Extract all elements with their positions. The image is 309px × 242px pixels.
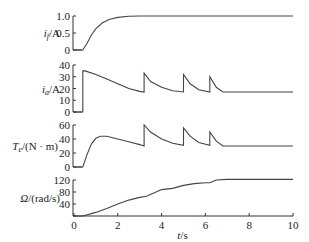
chart-figure: 00.51.0if/A010203040ia/A0204060Te/(N · m…: [0, 0, 309, 242]
y-tick-label: 20: [59, 147, 71, 159]
y-tick-label: 60: [59, 119, 71, 131]
x-tick-label: 6: [203, 219, 209, 231]
y-tick-label: 40: [59, 198, 71, 210]
y-axis-label: if/A: [44, 27, 60, 41]
panel-1: 00.51.0if/A: [44, 10, 293, 56]
y-tick-label: 80: [59, 186, 71, 198]
series-line: [74, 125, 293, 167]
y-axis-label: ia/A: [42, 83, 60, 97]
x-tick-label: 0: [71, 219, 77, 231]
x-tick-label: 2: [115, 219, 121, 231]
x-tick-label: 10: [288, 219, 300, 231]
y-tick-label: 0: [65, 44, 71, 56]
series-line: [74, 179, 293, 216]
y-tick-label: 10: [59, 94, 71, 106]
y-tick-label: 1.0: [56, 10, 70, 22]
y-tick-label: 0: [65, 161, 71, 173]
panel-2: 010203040ia/A: [42, 59, 293, 118]
y-tick-label: 20: [59, 83, 71, 95]
y-axis-label: Te/(N · m): [12, 140, 58, 154]
y-tick-label: 40: [59, 59, 71, 71]
y-axis-label: Ω/(rad/s): [20, 192, 60, 205]
panel-4: 4080120Ω/(rad/s): [20, 174, 293, 216]
series-line: [74, 71, 293, 112]
x-tick-label: 4: [159, 219, 165, 231]
x-axis-title: t/s: [177, 229, 187, 241]
y-tick-label: 0: [65, 106, 71, 118]
y-tick-label: 30: [59, 71, 71, 83]
y-tick-label: 40: [59, 133, 71, 145]
panel-3: 0204060Te/(N · m): [12, 119, 293, 173]
x-axis: 0246810t/s: [71, 213, 299, 241]
y-tick-label: 120: [54, 174, 71, 186]
x-tick-label: 8: [246, 219, 252, 231]
series-line: [74, 16, 293, 50]
